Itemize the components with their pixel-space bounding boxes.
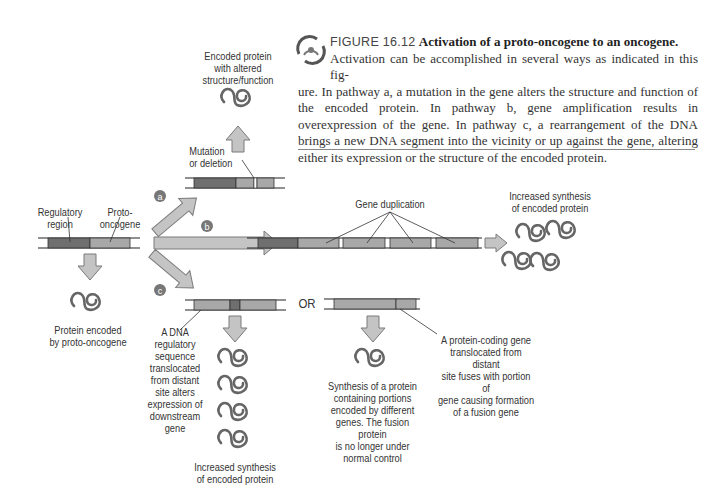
label-protein-coding-gene: A protein-coding gene translocated from … <box>437 334 536 418</box>
label-proto-oncogene: Proto- oncogene <box>94 206 147 230</box>
label-regulatory-region: Regulatory region <box>34 206 87 230</box>
label-increased-synthesis-b: Increased synthesis of encoded protein <box>506 190 594 214</box>
svg-text:c: c <box>158 286 163 296</box>
label-encoded-altered: Encoded protein with altered structure/f… <box>194 50 282 86</box>
label-increased-synthesis-c: Increased synthesis of encoded protein <box>191 461 279 485</box>
label-mutation: Mutation or deletion <box>189 145 251 169</box>
figure-number: FIGURE 16.12 <box>330 35 416 49</box>
protein-icon-a <box>222 89 250 106</box>
svg-text:a: a <box>157 192 162 202</box>
label-dna-regulatory-sequence: A DNA regulatory sequence translocated f… <box>144 326 206 434</box>
figure-caption: FIGURE 16.12 Activation of a proto-oncog… <box>298 34 698 166</box>
label-protein-encoded: Protein encoded by proto-oncogene <box>44 324 132 348</box>
label-fusion-protein: Synthesis of a protein containing portio… <box>322 380 423 464</box>
label-gene-duplication: Gene duplication <box>350 198 429 210</box>
caption-rule <box>298 149 695 150</box>
figure-title: Activation of a proto-oncogene to an onc… <box>419 34 678 49</box>
pathway-b-dna <box>247 212 482 248</box>
protein-icon-origin <box>72 293 100 310</box>
arrow-down-origin <box>78 254 102 280</box>
label-or: OR <box>296 298 317 310</box>
caption-body: ure. In pathway a, a mutation in the gen… <box>298 84 698 165</box>
svg-text:b: b <box>204 222 209 232</box>
